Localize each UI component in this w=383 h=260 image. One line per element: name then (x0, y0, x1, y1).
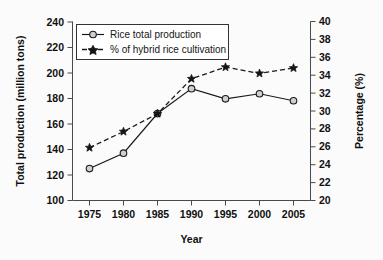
y-tick-right-label: 26 (319, 140, 331, 152)
y-tick-right-label: 24 (319, 158, 331, 170)
y-tick-right: 36 (311, 51, 331, 63)
chart-figure: 100 120 140 160 180 200 (0, 0, 383, 260)
y-tick-left: 180 (46, 92, 72, 104)
y-tick-right: 38 (311, 33, 331, 45)
data-point-star (85, 143, 93, 151)
y-tick-right-label: 40 (319, 15, 331, 27)
data-point-star (119, 127, 127, 135)
legend-label: % of hybrid rice cultivation (110, 44, 226, 55)
y-tick-left-label: 140 (46, 143, 64, 155)
data-point-circle (188, 85, 195, 92)
y-tick-right: 20 (311, 194, 331, 206)
y-tick-left-label: 220 (46, 41, 64, 53)
data-point-circle (86, 165, 93, 172)
y-tick-left: 200 (46, 67, 72, 79)
series-of-hybrid-rice-cultivation (85, 63, 297, 152)
data-point-circle (222, 96, 229, 103)
x-axis-title: Year (180, 233, 202, 245)
y-tick-right: 32 (311, 87, 331, 99)
y-tick-right-label: 30 (319, 105, 331, 117)
y-tick-right: 28 (311, 122, 331, 134)
data-point-circle (120, 150, 127, 157)
line-chart: 100 120 140 160 180 200 (0, 0, 383, 260)
legend: Rice total production % of hybrid rice c… (77, 25, 229, 60)
y-tick-right-label: 34 (319, 69, 331, 81)
x-axis-ticks: 1975 1980 1985 1990 1995 2000 (78, 201, 306, 221)
y-tick-left: 160 (46, 118, 72, 130)
y-tick-right: 30 (311, 105, 331, 117)
y-tick-right: 22 (311, 176, 331, 188)
x-tick-label: 2005 (282, 208, 306, 220)
y-axis-right-ticks: 20 22 24 26 28 30 (311, 15, 331, 206)
legend-label: Rice total production (110, 29, 201, 40)
x-tick: 2000 (248, 201, 272, 221)
x-tick: 1980 (112, 201, 136, 221)
x-tick: 1990 (180, 201, 204, 221)
y-tick-left-label: 240 (46, 16, 64, 28)
y-tick-right-label: 20 (319, 194, 331, 206)
series-layer (85, 63, 297, 172)
x-tick: 1995 (214, 201, 238, 221)
x-tick-label: 1975 (78, 208, 102, 220)
legend-marker-open-circle (90, 31, 97, 38)
y-tick-left-label: 200 (46, 67, 64, 79)
data-point-star (289, 64, 297, 72)
y-tick-right: 34 (311, 69, 331, 81)
data-point-star (221, 63, 229, 71)
y-tick-right-label: 32 (319, 87, 331, 99)
x-tick-label: 1985 (146, 208, 170, 220)
x-tick-label: 1995 (214, 208, 238, 220)
y-axis-left-ticks: 100 120 140 160 180 200 (46, 16, 72, 207)
y-tick-right-label: 38 (319, 33, 331, 45)
y-tick-left-label: 100 (46, 194, 64, 206)
x-tick-label: 1980 (112, 208, 136, 220)
x-tick: 1985 (146, 201, 170, 221)
series-rice-total-production (86, 85, 297, 172)
data-point-circle (290, 97, 297, 104)
y-tick-left: 120 (46, 169, 72, 181)
y-tick-left-label: 120 (46, 169, 64, 181)
y-tick-right: 26 (311, 140, 331, 152)
x-tick-label: 2000 (248, 208, 272, 220)
series-line (90, 89, 294, 169)
y-tick-left-label: 160 (46, 118, 64, 130)
y-tick-left: 140 (46, 143, 72, 155)
y-tick-left-label: 180 (46, 92, 64, 104)
y-tick-left: 220 (46, 41, 72, 53)
data-point-star (255, 69, 263, 77)
data-point-circle (256, 90, 263, 97)
x-tick-label: 1990 (180, 208, 204, 220)
y-axis-right-title: Percentage (%) (353, 73, 365, 149)
y-tick-right-label: 28 (319, 122, 331, 134)
y-axis-left-title: Total production (million tons) (14, 36, 26, 187)
x-tick: 1975 (78, 201, 102, 221)
y-tick-left: 240 (46, 16, 72, 28)
y-tick-left: 100 (46, 194, 72, 206)
y-tick-right: 40 (311, 15, 331, 27)
x-tick: 2005 (282, 201, 306, 221)
y-tick-right: 24 (311, 158, 331, 170)
y-tick-right-label: 22 (319, 176, 331, 188)
y-tick-right-label: 36 (319, 51, 331, 63)
